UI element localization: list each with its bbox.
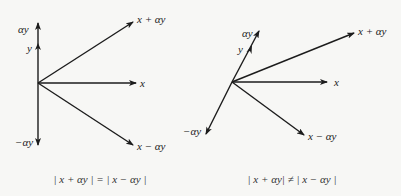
label-x-plus-alpha-y: x + αy: [357, 25, 387, 37]
right-caption: | x + αy| ≠ | x − αy |: [248, 173, 337, 185]
label-y: y: [26, 42, 32, 54]
label-x-plus-alpha-y: x + αy: [136, 13, 166, 25]
vector-x-plus-alpha-y-arrow-icon: [38, 22, 133, 83]
vector-x-minus-alpha-y-arrow-icon: [38, 83, 133, 145]
right-diagram: αy y −αy x x + αy x − αy | x + αy| ≠ | x…: [183, 25, 387, 185]
label-neg-alpha-y: −αy: [15, 136, 33, 148]
label-x-minus-alpha-y: x − αy: [136, 140, 166, 152]
vector-figure: αy y −αy x x + αy x − αy | x + αy | = | …: [0, 0, 401, 196]
label-x: x: [333, 76, 339, 88]
label-y: y: [237, 43, 243, 55]
label-alpha-y: αy: [242, 27, 253, 39]
left-caption: | x + αy | = | x − αy |: [54, 173, 147, 185]
vector-neg-alpha-y-arrow-icon: [206, 82, 232, 134]
label-alpha-y: αy: [18, 23, 29, 35]
vector-x-minus-alpha-y-arrow-icon: [232, 82, 304, 135]
label-x: x: [139, 77, 145, 89]
vector-x-plus-alpha-y-arrow-icon: [232, 33, 354, 82]
left-diagram: αy y −αy x x + αy x − αy | x + αy | = | …: [15, 13, 166, 185]
label-neg-alpha-y: −αy: [183, 125, 201, 137]
label-x-minus-alpha-y: x − αy: [307, 130, 337, 142]
